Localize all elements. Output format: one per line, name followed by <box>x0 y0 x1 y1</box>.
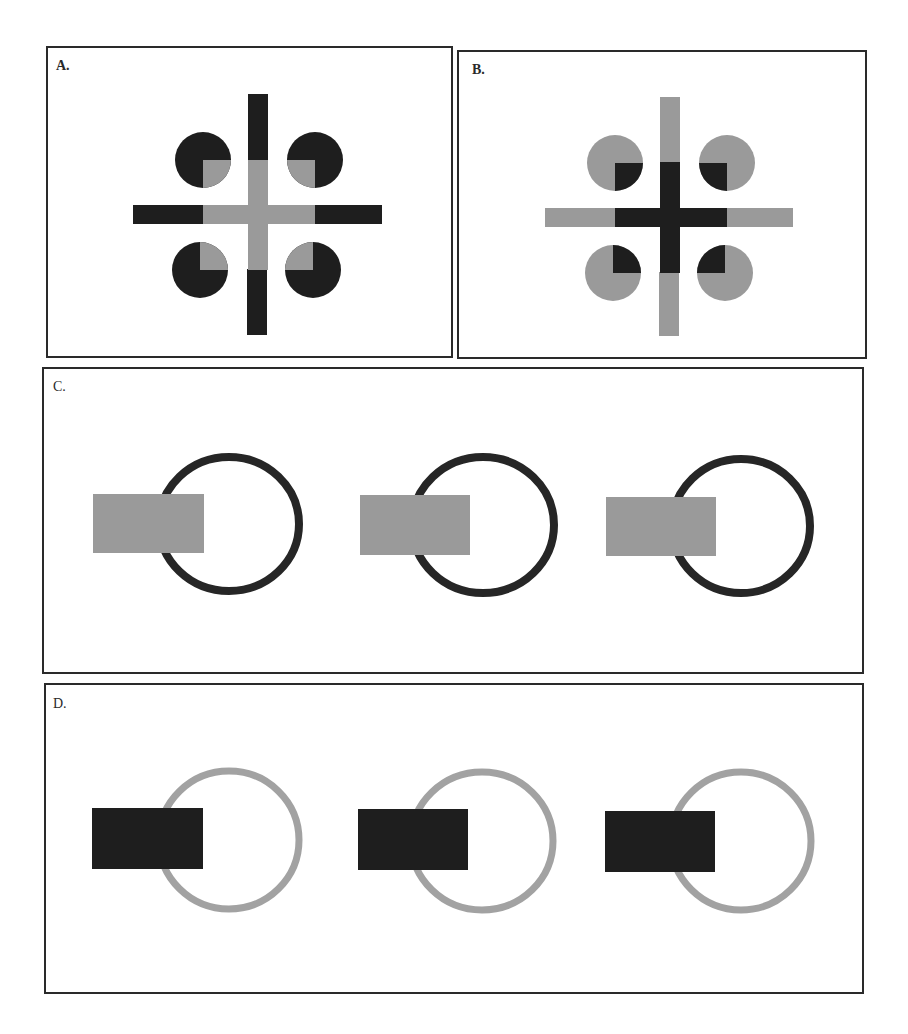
cross-arm-left <box>545 208 615 227</box>
cross-arm-top <box>660 97 680 163</box>
cross-arm-right <box>727 208 793 227</box>
figure-canvas: A. B. <box>0 0 908 1034</box>
panel-a: A. <box>47 47 452 357</box>
gray-occluder <box>606 497 716 556</box>
panel-c-label: C. <box>53 379 66 394</box>
gray-occluder <box>360 495 470 555</box>
cross-center-horizontal <box>203 205 315 224</box>
gray-occluder <box>93 494 204 553</box>
panel-b-label: B. <box>472 62 485 77</box>
cross-arm-top <box>248 94 268 161</box>
panel-d-label: D. <box>53 696 67 711</box>
cross-arm-bottom <box>659 272 679 336</box>
cross-arm-right <box>315 205 382 224</box>
cross-center-horizontal <box>615 208 727 227</box>
panel-a-label: A. <box>56 58 70 73</box>
dark-occluder <box>605 811 715 872</box>
cross-arm-bottom <box>247 269 267 335</box>
dark-occluder <box>92 808 203 869</box>
panel-c: C. <box>43 368 863 673</box>
cross-arm-left <box>133 205 203 224</box>
panel-b: B. <box>458 51 866 358</box>
panel-d: D. <box>45 684 863 993</box>
dark-occluder <box>358 809 468 870</box>
